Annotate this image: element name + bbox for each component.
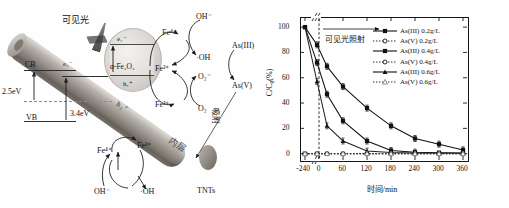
x-tick-label: 180 — [384, 164, 395, 173]
legend-label: As(V) 0.4g/L — [398, 57, 438, 67]
hydroxide-bottom-label: OH⁻ — [94, 187, 110, 196]
x-axis-label: 时间/min — [255, 183, 509, 194]
y-tick-label: 40 — [282, 98, 290, 107]
fe4-lower-label: Fe⁴⁺ — [97, 146, 112, 155]
electron-e1-label: e₁⁻ — [117, 35, 127, 43]
hole-h1-label: h₁⁺ — [123, 80, 133, 88]
cb-label: CB — [25, 60, 36, 69]
alpha-fe2o3-band-box — [110, 44, 154, 76]
y-tick-label: 80 — [282, 47, 290, 56]
x-tick-label: 120 — [360, 164, 371, 173]
legend-label: As(III) 0.2g/L — [398, 26, 440, 36]
tnts-cb-line — [62, 76, 108, 77]
bandgap-3p4ev-label: 3.4eV — [70, 109, 89, 118]
hydroxyl-radical-top-label: ·OH — [196, 53, 210, 62]
y-tick-label: 0 — [286, 149, 290, 158]
electron-e2-label: e₂⁻ — [63, 60, 73, 68]
y-tick-label: 20 — [282, 123, 290, 132]
legend-symbol-open-circle — [372, 36, 398, 46]
x-tick-label: 240 — [408, 164, 419, 173]
legend-label: As(V) 0.2g/L — [398, 36, 438, 46]
mechanism-diagram-panel: 可见光 CB VB 2.5eV 3.4eV e₂⁻ h₂⁺ e₁⁻ α-Fe₂O… — [0, 0, 255, 208]
legend-label: As(V) 0.6g/L — [398, 77, 438, 87]
chart-legend: As(III) 0.2g/LAs(V) 0.2g/LAs(III) 0.4g/L… — [372, 26, 440, 87]
hydroxyl-radical-bottom-label: ·OH — [140, 187, 154, 196]
legend-item[interactable]: As(V) 0.2g/L — [372, 36, 440, 46]
vb-label: VB — [26, 113, 37, 122]
oxygen-label: O₂ — [198, 104, 207, 113]
legend-item[interactable]: As(V) 0.6g/L — [372, 77, 440, 87]
fe3-lower-label: Fe³⁺ — [137, 141, 151, 150]
legend-item[interactable]: As(III) 0.2g/L — [372, 26, 440, 36]
x-tick-label: 360 — [456, 164, 467, 173]
legend-item[interactable]: As(III) 0.4g/L — [372, 46, 440, 56]
x-tick-label: 60 — [339, 164, 347, 173]
irradiation-annotation: 可见光照射 — [325, 33, 365, 44]
x-tick-label: -240 — [296, 164, 310, 173]
cb-level-line — [24, 70, 76, 71]
y-axis-label: C/C₀(%) — [265, 48, 274, 118]
y-tick-label: 60 — [282, 73, 290, 82]
bandgap-2p5ev-label: 2.5eV — [2, 87, 21, 96]
legend-symbol-open-triangle — [372, 77, 398, 87]
as3-label: As(III) — [232, 41, 254, 50]
as5-label: As(V) — [232, 81, 252, 90]
legend-label: As(III) 0.6g/L — [398, 67, 440, 77]
superoxide-label: O₂⁻ — [198, 72, 211, 81]
legend-symbol-open-circle — [372, 57, 398, 67]
visible-light-label: 可见光 — [62, 13, 89, 26]
legend-symbol-filled-triangle — [372, 67, 398, 77]
fe3-mid-label: Fe³⁺ — [155, 64, 169, 73]
legend-item[interactable]: As(V) 0.4g/L — [372, 57, 440, 67]
figure-root: 可见光 CB VB 2.5eV 3.4eV e₂⁻ h₂⁺ e₁⁻ α-Fe₂O… — [0, 0, 509, 208]
x-tick-label: 0 — [317, 164, 321, 173]
tnts-label: TNTs — [197, 186, 215, 195]
fe4-top-label: Fe⁴⁺ — [162, 28, 177, 37]
mid-level-dashed-line — [24, 101, 112, 102]
hydroxide-top-label: OH⁻ — [196, 12, 212, 21]
legend-symbol-filled-square — [372, 46, 398, 56]
adsorption-label: 吸附 — [211, 108, 222, 124]
nanotube-end-cap — [199, 145, 217, 170]
x-tick-label: 300 — [432, 164, 443, 173]
chart-panel: C/C₀(%) 时间/min 可见光照射 As(III) 0.2g/LAs(V)… — [255, 0, 509, 208]
legend-label: As(III) 0.4g/L — [398, 46, 440, 56]
fe2-bottom-label: Fe²⁺ — [155, 100, 169, 109]
alpha-fe2o3-label: α-Fe₂O₃ — [110, 62, 135, 71]
legend-symbol-filled-square — [372, 26, 398, 36]
legend-item[interactable]: As(III) 0.6g/L — [372, 67, 440, 77]
y-tick-label: 100 — [278, 22, 289, 31]
